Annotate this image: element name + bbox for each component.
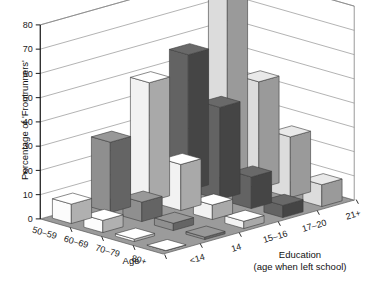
- z-tick-3: [317, 211, 319, 215]
- x-tick-3: [165, 254, 167, 259]
- z-tick-label-3: 17–20: [301, 217, 328, 233]
- y-axis-title: Percentage of 'Frontrunners': [19, 60, 30, 180]
- y-tick-label-0: 0: [28, 214, 33, 224]
- bar-face-side: [181, 159, 201, 211]
- three-d-bar-chart: 0102030405060708050–5960–6970–7980+<1414…: [0, 0, 385, 285]
- z-tick-0: [200, 244, 202, 248]
- x-tick-label-1: 60–69: [63, 234, 90, 250]
- bar-face-side: [110, 137, 130, 213]
- x-tick-label-0: 50–59: [31, 225, 58, 241]
- bar-face-front: [130, 77, 149, 201]
- bar-face-side: [290, 131, 310, 197]
- y-tick-label-80: 80: [23, 20, 33, 30]
- y-tick-label-10: 10: [23, 190, 33, 200]
- z-tick-label-1: 14: [230, 242, 242, 254]
- z-tick-label-2: 15–16: [262, 228, 289, 244]
- z-tick-label-0: <14: [189, 252, 206, 266]
- z-tick-1: [239, 233, 241, 237]
- x-tick-label-2: 70–79: [94, 243, 121, 259]
- z-axis-subtitle: (age when left school): [254, 261, 347, 272]
- y-tick-label-70: 70: [23, 44, 33, 54]
- bar-face-front: [91, 137, 110, 213]
- z-axis-title: Education: [279, 249, 321, 260]
- z-tick-2: [278, 222, 280, 226]
- bar-face-side: [149, 77, 169, 202]
- bar: [52, 193, 91, 224]
- z-tick-4: [356, 200, 358, 204]
- chart-canvas: 0102030405060708050–5960–6970–7980+<1414…: [0, 0, 385, 285]
- bar: [130, 72, 169, 202]
- bar-face-side: [251, 171, 271, 208]
- x-axis-title: Age: [123, 255, 140, 266]
- bar: [91, 131, 130, 212]
- bar-face-side: [220, 102, 240, 200]
- z-tick-label-4: 21+: [345, 208, 362, 222]
